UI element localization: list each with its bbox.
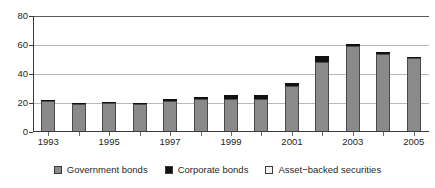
x-tick-mark-1998: [201, 132, 202, 136]
plot-area: [33, 16, 429, 132]
legend-swatch-government-bonds: [54, 166, 62, 174]
x-tick-mark-2004: [383, 132, 384, 136]
legend-swatch-asset-backed-securities: [265, 166, 273, 174]
x-axis-label-2001: 2001: [270, 137, 314, 147]
legend-label-2: Asset−backed securities: [278, 165, 381, 175]
bar-chart: 020406080 1993199519971999200120032005 G…: [0, 0, 435, 188]
y-axis-label-60: 60: [0, 40, 28, 50]
legend-label-0: Government bonds: [67, 165, 148, 175]
x-tick-mark-1994: [79, 132, 80, 136]
y-axis-label-80: 80: [0, 11, 28, 21]
x-axis-label-2005: 2005: [392, 137, 435, 147]
y-axis-label-20: 20: [0, 98, 28, 108]
chart-legend: Government bondsCorporate bondsAsset−bac…: [0, 165, 435, 175]
x-tick-mark-1996: [140, 132, 141, 136]
y-tick-mark-0: [29, 132, 33, 133]
x-tick-mark-2000: [261, 132, 262, 136]
legend-item-0[interactable]: Government bonds: [54, 165, 148, 175]
y-axis-label-40: 40: [0, 69, 28, 79]
plot-frame: [33, 16, 429, 132]
x-axis-label-1993: 1993: [26, 137, 70, 147]
x-axis-label-2003: 2003: [331, 137, 375, 147]
y-axis-label-0: 0: [0, 127, 28, 137]
legend-item-1[interactable]: Corporate bonds: [165, 165, 249, 175]
legend-swatch-corporate-bonds: [165, 166, 173, 174]
x-tick-mark-2002: [322, 132, 323, 136]
legend-label-1: Corporate bonds: [178, 165, 249, 175]
x-axis-label-1997: 1997: [148, 137, 192, 147]
legend-item-2[interactable]: Asset−backed securities: [265, 165, 381, 175]
x-axis-label-1995: 1995: [87, 137, 131, 147]
x-axis-label-1999: 1999: [209, 137, 253, 147]
